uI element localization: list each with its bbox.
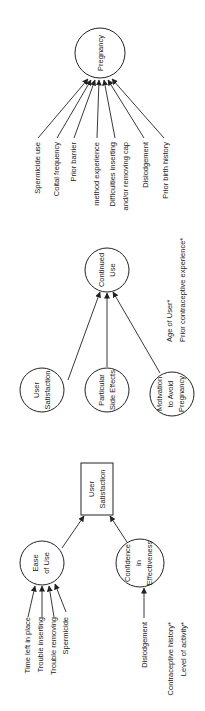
- label-spermicide-use: Spermicide use: [33, 142, 42, 194]
- continued-use-line1: Continued: [97, 253, 106, 287]
- note-prior-contraceptive-experience: Prior contraceptive experience*: [178, 238, 187, 342]
- label-prior-birth-history: Prior birth history: [161, 142, 170, 199]
- ease-of-use-line1: Ease: [31, 554, 40, 571]
- motivation-line1: Motivation: [155, 377, 164, 411]
- note-age-of-user: Age of User*: [165, 299, 174, 342]
- user-satisfaction-box-line2: Satisfaction: [98, 470, 107, 509]
- note-level-of-activity: Level of activity*: [179, 622, 188, 676]
- motivation-line2: to Avoid: [166, 381, 175, 408]
- user-satisfaction-circle-line1: User: [32, 382, 41, 398]
- pregnancy-arrows: [38, 79, 164, 138]
- confidence-line3: Effectiveness: [145, 541, 154, 586]
- pregnancy-input-labels: Spermicide use Coital frequency Prior ba…: [33, 141, 170, 210]
- ease-of-use-input-labels: Time left in place Trouble inserting Tro…: [23, 617, 70, 675]
- pregnancy-label: Pregnancy: [96, 35, 105, 71]
- label-trouble-removing: Trouble removing: [49, 617, 58, 675]
- ease-of-use-node: Ease of Use: [20, 541, 64, 585]
- continued-use-line2: Use: [108, 263, 117, 276]
- continued-use-arrows: [68, 292, 160, 380]
- side-effects-line1: Particular: [97, 374, 106, 406]
- continued-use-notes: Age of User* Prior contraceptive experie…: [165, 238, 187, 342]
- diagram-canvas: Pregnancy Spermicide use Coital frequenc…: [0, 0, 205, 711]
- note-contraceptive-history: Contraceptive history*: [166, 622, 175, 695]
- user-satisfaction-box-arrows: [62, 516, 127, 548]
- side-effects-line2: Side Effects: [108, 370, 117, 410]
- user-satisfaction-box-node: User Satisfaction: [81, 463, 113, 515]
- label-spermicide: Spermicide: [61, 617, 70, 655]
- ease-of-use-arrows: [28, 584, 66, 617]
- user-satisfaction-box-line1: User: [87, 481, 96, 497]
- motivation-line3: Pregnancy: [177, 376, 186, 412]
- user-satisfaction-circle-node: User Satisfaction: [20, 368, 64, 412]
- label-difficulties-inserting: Difficulties inserting: [108, 142, 117, 206]
- label-method-experience: method experience: [92, 142, 101, 206]
- ease-of-use-line2: of Use: [42, 552, 51, 574]
- label-coital-frequency: Coital frequency: [52, 142, 61, 196]
- label-dislodgement-confidence: Dislodgement: [140, 621, 149, 668]
- confidence-line2: in: [134, 560, 143, 566]
- label-dislodgement: Dislodgement: [141, 141, 150, 188]
- label-trouble-inserting: Trouble inserting: [36, 617, 45, 673]
- side-effects-node: Particular Side Effects: [85, 368, 129, 412]
- label-time-left-in-place: Time left in place: [23, 617, 32, 673]
- confidence-line1: Confidence: [123, 544, 132, 582]
- confidence-inputs: Dislodgement Contraceptive history* Leve…: [140, 588, 188, 695]
- pregnancy-node: Pregnancy: [75, 28, 125, 78]
- continued-use-node: Continued Use: [85, 248, 129, 292]
- label-prior-barrier: Prior barrier: [69, 142, 78, 182]
- label-and-or-removing-cap: and/or removing cap: [121, 142, 130, 210]
- motivation-node: Motivation to Avoid Pregnancy: [150, 372, 194, 416]
- user-satisfaction-circle-line2: Satisfaction: [43, 371, 52, 410]
- confidence-node: Confidence in Effectiveness: [116, 539, 164, 587]
